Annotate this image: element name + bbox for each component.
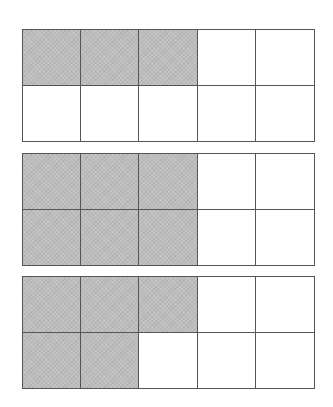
empty-cell-r2-c4 [198,86,256,142]
empty-cell-r1-c4 [198,154,256,210]
shaded-cell-r2-c2 [81,210,139,266]
shaded-cell-r2-c2 [81,333,139,389]
shaded-cell-r1-c1 [23,154,81,210]
shaded-cell-r1-c3 [139,277,197,333]
empty-cell-r2-c2 [81,86,139,142]
fraction-grid-3 [22,276,315,389]
fraction-grid-1 [22,29,315,142]
shaded-cell-r2-c1 [23,333,81,389]
empty-cell-r1-c5 [256,277,314,333]
empty-cell-r1-c4 [198,277,256,333]
shaded-cell-r1-c3 [139,154,197,210]
shaded-cell-r2-c3 [139,210,197,266]
empty-cell-r2-c5 [256,210,314,266]
empty-cell-r2-c1 [23,86,81,142]
empty-cell-r2-c3 [139,333,197,389]
empty-cell-r2-c3 [139,86,197,142]
empty-cell-r1-c5 [256,30,314,86]
shaded-cell-r2-c1 [23,210,81,266]
shaded-cell-r1-c2 [81,30,139,86]
empty-cell-r2-c5 [256,86,314,142]
shaded-cell-r1-c3 [139,30,197,86]
empty-cell-r2-c5 [256,333,314,389]
empty-cell-r2-c4 [198,333,256,389]
empty-cell-r1-c5 [256,154,314,210]
empty-cell-r1-c4 [198,30,256,86]
shaded-cell-r1-c2 [81,277,139,333]
empty-cell-r2-c4 [198,210,256,266]
fraction-grid-2 [22,153,315,266]
shaded-cell-r1-c2 [81,154,139,210]
shaded-cell-r1-c1 [23,30,81,86]
shaded-cell-r1-c1 [23,277,81,333]
